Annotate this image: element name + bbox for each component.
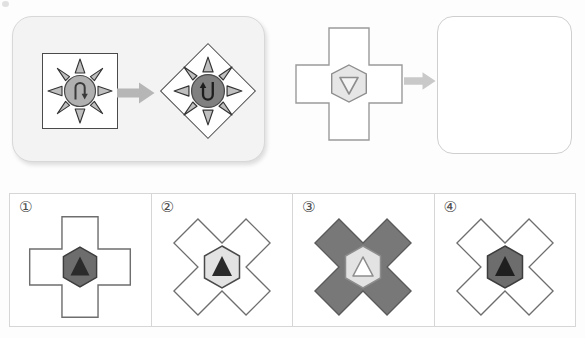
question-figure [290, 22, 408, 146]
option-figure-4 [446, 208, 564, 326]
options-row: ① ② ③ [9, 193, 576, 327]
option-cell-2[interactable]: ② [152, 194, 294, 326]
answer-placeholder-box[interactable] [437, 16, 572, 154]
example-target-figure [160, 43, 256, 139]
corner-speck [2, 1, 9, 7]
option-figure-2 [163, 208, 281, 326]
option-figure-1 [24, 211, 136, 323]
example-source-sunburst [46, 57, 114, 125]
example-target-sunburst [172, 55, 244, 127]
example-panel [12, 16, 265, 162]
example-right-arrow-icon [117, 82, 155, 104]
option-cell-3[interactable]: ③ [293, 194, 435, 326]
question-right-arrow-icon [404, 71, 436, 91]
example-source-figure [42, 53, 118, 129]
option-cell-1[interactable]: ① [10, 194, 152, 326]
option-cell-4[interactable]: ④ [435, 194, 576, 326]
option-figure-3 [304, 208, 422, 326]
